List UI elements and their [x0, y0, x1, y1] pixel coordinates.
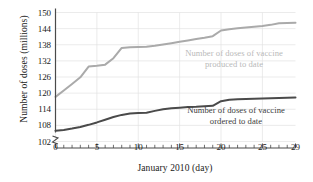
- vaccine-doses-line-chart: Number of doses (millions) 1021081141201…: [0, 0, 313, 182]
- x-axis-tick-label: 10: [125, 142, 151, 152]
- x-axis-tick-labels: 051015202529: [0, 142, 313, 156]
- x-axis-tick-label: 25: [249, 142, 275, 152]
- x-axis-tick-label: 15: [167, 142, 193, 152]
- series-label-produced: Number of doses of vaccine produced to d…: [168, 48, 300, 70]
- x-axis-tick-label: 29: [283, 142, 309, 152]
- series-label-ordered: Number of doses of vaccine ordered to da…: [170, 105, 302, 127]
- x-axis-tick-label: 5: [84, 142, 110, 152]
- x-axis-tick-label: 0: [43, 142, 69, 152]
- x-axis-title: January 2010 (day): [55, 163, 295, 173]
- x-axis-tick-label: 20: [208, 142, 234, 152]
